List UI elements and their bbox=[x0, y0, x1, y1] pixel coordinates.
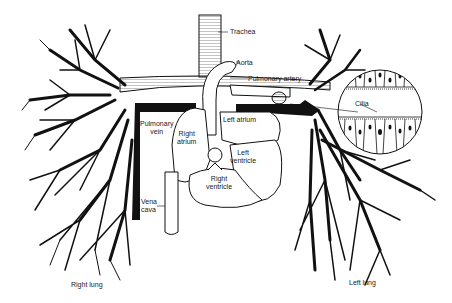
label-left-atrium: Left atrium bbox=[223, 116, 256, 124]
pulmonary-artery bbox=[230, 85, 290, 104]
label-vena-cava: Vena cava bbox=[141, 198, 157, 214]
label-right-atrium: Right atrium bbox=[177, 130, 196, 146]
right-lung-tree bbox=[22, 25, 132, 280]
label-pulmonary-vein: Pulmonary vein bbox=[140, 120, 173, 136]
label-left-ventricle: Left ventricle bbox=[230, 149, 256, 165]
label-trachea: Trachea bbox=[230, 28, 255, 36]
heart-lung-diagram: Trachea Aorta Pulmonary artery Cilia Pul… bbox=[0, 0, 452, 303]
label-right-ventricle: Right ventricle bbox=[206, 175, 232, 191]
label-aorta: Aorta bbox=[236, 59, 253, 67]
label-pulmonary-artery: Pulmonary artery bbox=[248, 75, 301, 83]
vena-cava bbox=[165, 172, 178, 235]
left-lung-tree bbox=[295, 30, 435, 285]
label-right-lung: Right lung bbox=[71, 281, 103, 289]
label-cilia: Cilia bbox=[355, 100, 369, 108]
cilia-inset bbox=[336, 70, 424, 154]
label-left-lung: Left lung bbox=[349, 279, 376, 287]
diagram-canvas bbox=[0, 0, 452, 303]
